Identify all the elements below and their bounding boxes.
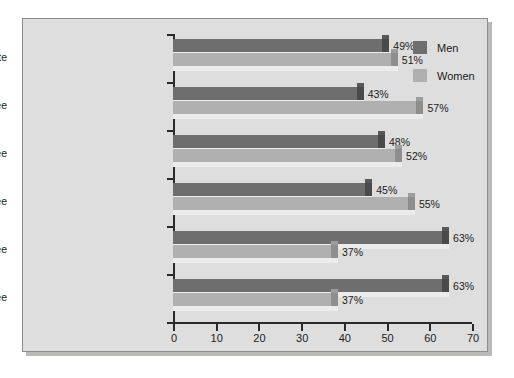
- legend-label: Women: [437, 70, 475, 82]
- bar-women: [173, 293, 331, 306]
- bar-end-cap: [442, 279, 449, 292]
- x-axis-tick-label: 60: [410, 332, 450, 344]
- bar-end-cap: [357, 87, 364, 100]
- x-axis-tick-label: 40: [325, 332, 365, 344]
- bar-face: [173, 231, 442, 244]
- category-label: Master's degree: [0, 195, 7, 207]
- bar-value-label: 52%: [406, 150, 427, 162]
- bar-value-label: 43%: [368, 88, 389, 100]
- bar-end-cap: [395, 149, 402, 162]
- bar-base-shadow: [173, 306, 338, 311]
- bar-value-label: 63%: [453, 232, 474, 244]
- x-axis-tick: [429, 324, 431, 331]
- x-axis-tick-label: 70: [453, 332, 493, 344]
- bar-end-cap: [378, 135, 385, 148]
- category-label: Professional degree: [0, 243, 7, 255]
- bar-men: [173, 183, 365, 196]
- x-axis-tick-label: 20: [239, 332, 279, 344]
- bar-face: [173, 149, 395, 162]
- bar-face: [173, 135, 378, 148]
- bar-men: [173, 87, 357, 100]
- x-axis-tick-label: 30: [282, 332, 322, 344]
- category-label: Bachelor's degree: [0, 147, 7, 159]
- x-axis-tick: [258, 324, 260, 331]
- x-axis-tick: [387, 324, 389, 331]
- bar-women: [173, 101, 416, 114]
- x-axis-tick: [344, 324, 346, 331]
- bar-value-label: 37%: [342, 246, 363, 258]
- bar-value-label: 57%: [427, 102, 448, 114]
- y-axis-tick: [167, 130, 175, 132]
- bar-end-cap: [331, 245, 338, 258]
- legend-item-men[interactable]: Men: [413, 41, 458, 54]
- bar-face: [173, 53, 391, 66]
- bar-men: [173, 279, 442, 292]
- bar-value-label: 45%: [376, 184, 397, 196]
- x-axis-tick: [301, 324, 303, 331]
- y-axis-tick: [167, 34, 175, 36]
- x-axis-tick-label: 10: [197, 332, 237, 344]
- bar-value-label: 51%: [402, 54, 423, 66]
- bar-women: [173, 197, 408, 210]
- x-axis-tick: [216, 324, 218, 331]
- bar-face: [173, 293, 331, 306]
- bar-face: [173, 39, 382, 52]
- legend-swatch-icon: [413, 41, 427, 54]
- plot-area: 010203040506070 High school graduateAsso…: [23, 19, 489, 353]
- x-axis-tick: [173, 324, 175, 331]
- bar-end-cap: [365, 183, 372, 196]
- legend-label: Men: [437, 42, 458, 54]
- bar-value-label: 63%: [453, 280, 474, 292]
- bar-end-cap: [391, 53, 398, 66]
- chart-panel: 010203040506070 High school graduateAsso…: [22, 18, 488, 352]
- x-axis-tick: [472, 324, 474, 331]
- bar-end-cap: [382, 39, 389, 52]
- bar-women: [173, 53, 391, 66]
- bar-end-cap: [331, 293, 338, 306]
- bar-end-cap: [442, 231, 449, 244]
- chart-figure: 010203040506070 High school graduateAsso…: [0, 0, 514, 378]
- y-axis-tick: [167, 274, 175, 276]
- bar-men: [173, 231, 442, 244]
- x-axis-line: [173, 322, 472, 324]
- legend-swatch-icon: [413, 69, 427, 82]
- y-axis-tick: [167, 178, 175, 180]
- bar-face: [173, 279, 442, 292]
- bar-end-cap: [408, 197, 415, 210]
- bar-base-shadow: [173, 258, 338, 263]
- category-label: Doctoral degree: [0, 291, 7, 303]
- y-axis-tick: [167, 226, 175, 228]
- bar-face: [173, 197, 408, 210]
- bar-face: [173, 183, 365, 196]
- bar-base-shadow: [173, 210, 415, 215]
- bar-men: [173, 135, 378, 148]
- bar-base-shadow: [173, 66, 398, 71]
- category-label: High school graduate: [0, 51, 7, 63]
- category-label: Associate's degree: [0, 99, 7, 111]
- x-axis-tick-label: 0: [154, 332, 194, 344]
- bar-value-label: 55%: [419, 198, 440, 210]
- y-axis-tick: [167, 82, 175, 84]
- legend-item-women[interactable]: Women: [413, 69, 475, 82]
- bar-women: [173, 245, 331, 258]
- bar-base-shadow: [173, 114, 423, 119]
- bar-face: [173, 87, 357, 100]
- x-axis-tick-label: 50: [368, 332, 408, 344]
- bar-men: [173, 39, 382, 52]
- bar-end-cap: [416, 101, 423, 114]
- bar-face: [173, 245, 331, 258]
- bar-face: [173, 101, 416, 114]
- bar-value-label: 37%: [342, 294, 363, 306]
- bar-base-shadow: [173, 162, 402, 167]
- bar-women: [173, 149, 395, 162]
